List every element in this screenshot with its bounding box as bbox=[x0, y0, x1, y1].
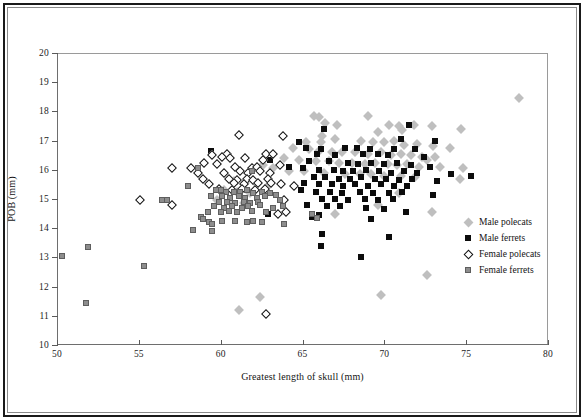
data-point bbox=[306, 158, 312, 164]
data-point bbox=[213, 187, 219, 193]
data-point bbox=[347, 158, 357, 168]
data-point bbox=[394, 160, 400, 166]
data-point bbox=[167, 200, 177, 210]
x-tick-label: 50 bbox=[52, 349, 62, 359]
data-point bbox=[214, 184, 224, 194]
data-point bbox=[399, 140, 409, 150]
data-point bbox=[167, 163, 177, 173]
data-point bbox=[85, 244, 91, 250]
y-tick bbox=[52, 316, 58, 317]
data-point bbox=[311, 156, 321, 166]
data-point bbox=[83, 300, 89, 306]
y-tick-label: 14 bbox=[39, 223, 49, 233]
data-point bbox=[379, 171, 389, 181]
data-point bbox=[200, 216, 206, 222]
data-point bbox=[230, 162, 240, 172]
data-point bbox=[219, 218, 225, 224]
y-tick-label: 18 bbox=[39, 106, 49, 116]
data-point bbox=[270, 205, 276, 211]
data-point bbox=[311, 174, 317, 180]
data-point bbox=[368, 216, 374, 222]
data-point bbox=[259, 219, 265, 225]
data-point bbox=[332, 196, 338, 202]
data-point bbox=[362, 196, 368, 202]
legend-item: Male polecats bbox=[461, 214, 540, 230]
y-tick-label: 19 bbox=[39, 77, 49, 87]
data-point bbox=[309, 211, 315, 217]
x-tick bbox=[384, 340, 385, 345]
data-point bbox=[59, 253, 65, 259]
data-point bbox=[360, 159, 370, 169]
data-point bbox=[319, 231, 325, 237]
data-point bbox=[221, 205, 227, 211]
data-point bbox=[363, 149, 373, 159]
y-tick-label: 13 bbox=[39, 252, 49, 262]
data-point bbox=[386, 234, 392, 240]
data-point bbox=[300, 165, 306, 171]
data-point bbox=[232, 187, 242, 197]
data-point bbox=[357, 189, 363, 195]
data-point bbox=[383, 176, 389, 182]
data-point bbox=[244, 187, 250, 193]
legend-label: Female polecats bbox=[479, 249, 540, 259]
data-point bbox=[378, 181, 384, 187]
data-point bbox=[234, 209, 240, 215]
data-point bbox=[394, 188, 404, 198]
data-point bbox=[345, 197, 351, 203]
y-tick-label: 20 bbox=[39, 48, 49, 58]
data-point bbox=[204, 179, 214, 189]
data-point bbox=[232, 218, 238, 224]
y-tick bbox=[52, 170, 58, 171]
data-point bbox=[331, 167, 337, 173]
data-point bbox=[224, 174, 234, 184]
data-point bbox=[136, 196, 146, 206]
data-point bbox=[240, 178, 250, 188]
data-point bbox=[212, 196, 222, 206]
data-point bbox=[422, 155, 432, 165]
data-point bbox=[229, 203, 235, 209]
data-point bbox=[185, 183, 191, 189]
data-point bbox=[363, 205, 369, 211]
data-point bbox=[245, 203, 251, 209]
data-point bbox=[242, 195, 248, 201]
data-point bbox=[250, 218, 256, 224]
data-point bbox=[250, 190, 256, 196]
data-point bbox=[406, 150, 416, 160]
x-tick bbox=[466, 340, 467, 345]
data-point bbox=[366, 169, 376, 179]
data-point bbox=[379, 137, 389, 147]
data-point bbox=[399, 189, 405, 195]
data-point bbox=[231, 189, 237, 195]
square-icon bbox=[461, 263, 475, 277]
data-point bbox=[258, 155, 268, 165]
data-point bbox=[303, 145, 309, 151]
data-point bbox=[232, 200, 238, 206]
data-point bbox=[376, 147, 386, 157]
x-tick bbox=[548, 340, 549, 345]
data-point bbox=[408, 162, 414, 168]
y-tick bbox=[52, 345, 58, 346]
data-point bbox=[301, 180, 307, 186]
data-point bbox=[273, 192, 279, 198]
data-point bbox=[268, 163, 278, 173]
legend-item: Female ferrets bbox=[461, 262, 540, 278]
data-point bbox=[141, 263, 147, 269]
data-point bbox=[350, 168, 356, 174]
axis-right bbox=[547, 53, 548, 345]
data-point bbox=[280, 203, 286, 209]
data-point bbox=[280, 153, 290, 163]
data-point bbox=[456, 124, 466, 134]
data-point bbox=[313, 189, 319, 195]
data-point bbox=[281, 207, 291, 217]
data-point bbox=[340, 183, 346, 189]
y-tick-label: 15 bbox=[39, 194, 49, 204]
data-point bbox=[284, 166, 294, 176]
data-point bbox=[314, 112, 324, 122]
data-point bbox=[263, 181, 273, 191]
data-point bbox=[198, 214, 204, 220]
data-point bbox=[244, 219, 250, 225]
data-point bbox=[365, 183, 371, 189]
data-point bbox=[358, 254, 364, 260]
data-point bbox=[216, 199, 222, 205]
data-point bbox=[265, 211, 271, 217]
